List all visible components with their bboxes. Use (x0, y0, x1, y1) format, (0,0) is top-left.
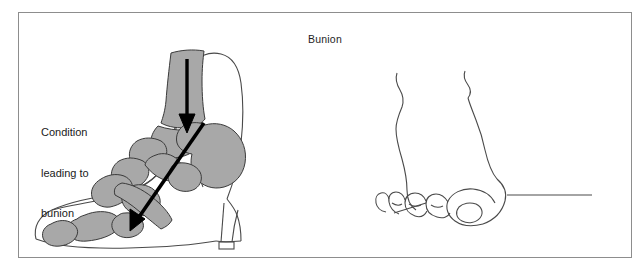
foot-outline (396, 71, 506, 224)
big-toe (447, 189, 495, 226)
fourth-toe-nail-crease (392, 203, 402, 205)
third-toe (405, 193, 427, 217)
label-condition-line-1: Condition (41, 126, 89, 140)
foot-top-view-illustration (349, 13, 633, 259)
little-toe (376, 193, 389, 212)
big-toe-nail (457, 203, 482, 223)
second-toe-nail-crease (431, 205, 443, 207)
label-condition-leading-to-bunion: Condition leading to bunion (41, 99, 89, 248)
label-condition-line-3: bunion (41, 207, 89, 221)
panel-foot-in-shoe: Condition leading to bunion (19, 13, 349, 257)
label-condition-line-2: leading to (41, 167, 89, 181)
figure-frame: Bunion (18, 12, 632, 258)
toes (376, 189, 495, 226)
panel-foot-top-view: Bunion Adjacent toe sometimes pushed ove… (349, 13, 633, 257)
